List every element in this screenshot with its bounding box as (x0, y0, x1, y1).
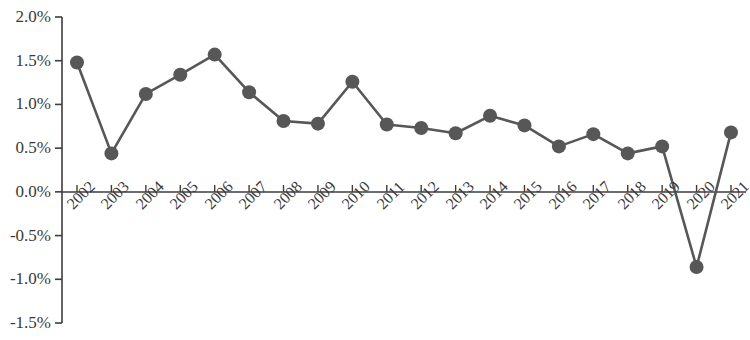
data-series (70, 48, 738, 274)
axes (55, 17, 746, 323)
data-point (242, 85, 256, 99)
data-point (449, 126, 463, 140)
series-line (77, 55, 731, 267)
y-axis-tick-label: 2.0% (16, 8, 51, 25)
data-point (483, 109, 497, 123)
data-point (380, 118, 394, 132)
data-point (724, 125, 738, 139)
data-point (655, 139, 669, 153)
data-point (690, 260, 704, 274)
data-point (277, 114, 291, 128)
data-point (552, 139, 566, 153)
data-point (70, 55, 84, 69)
y-axis-tick-label: -1.5% (10, 314, 51, 331)
data-point (621, 146, 635, 160)
data-point (208, 48, 222, 62)
y-axis-tick-label: 0.5% (16, 139, 51, 156)
y-axis-tick-label: 1.5% (16, 52, 51, 69)
y-axis-tick-label: -0.5% (10, 227, 51, 244)
line-chart: 2.0%1.5%1.0%0.5%0.0%-0.5%-1.0%-1.5% 2002… (0, 0, 750, 340)
data-point (414, 121, 428, 135)
data-point (104, 146, 118, 160)
data-point (345, 75, 359, 89)
y-axis-tick-label: 1.0% (16, 95, 51, 112)
data-point (139, 87, 153, 101)
data-point (586, 127, 600, 141)
y-axis-tick-label: 0.0% (16, 183, 51, 200)
data-point (173, 68, 187, 82)
data-point (517, 118, 531, 132)
chart-plot-area (0, 0, 750, 340)
y-axis-tick-label: -1.0% (10, 270, 51, 287)
y-axis-ticks (55, 17, 62, 323)
data-point (311, 117, 325, 131)
